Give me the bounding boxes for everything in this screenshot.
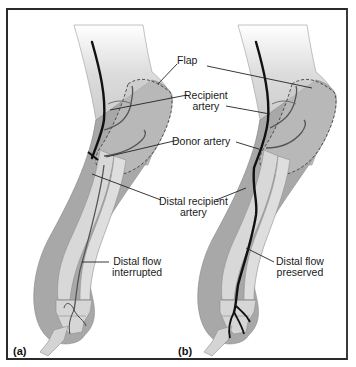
label-recipient-artery: Recipient artery [184,90,228,112]
label-recipient-artery-line2: artery [184,101,228,112]
caption-distal-flow-preserved: Distal flow preserved [276,256,324,278]
panel-label-b: (b) [178,345,192,357]
label-distal-recipient-artery: Distal recipient artery [159,196,228,218]
label-distal-recipient-line2: artery [159,207,228,218]
caption-distal-flow-interrupted: Distal flow interrupted [112,256,162,278]
label-donor-artery: Donor artery [172,136,230,147]
caption-b-line2: preserved [276,267,324,278]
panel-label-a: (a) [13,345,26,357]
limb-a [34,25,173,356]
limb-b [198,25,337,356]
caption-a-line2: interrupted [112,267,162,278]
label-flap: Flap [177,55,197,66]
